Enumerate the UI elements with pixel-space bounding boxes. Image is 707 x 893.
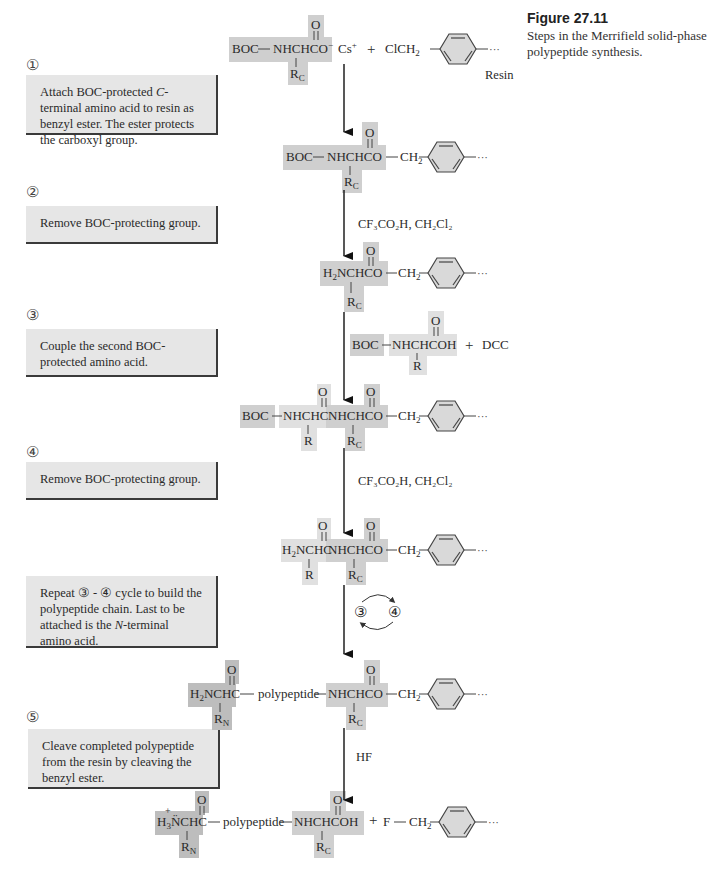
- svg-text:···: ···: [489, 43, 500, 55]
- svg-text:···: ···: [477, 544, 488, 556]
- svg-text:···: ···: [477, 267, 488, 279]
- svg-text:···: ···: [488, 816, 499, 828]
- svg-text:···: ···: [477, 410, 488, 422]
- benzene-ring-icon: [440, 34, 476, 64]
- svg-text:···: ···: [477, 688, 488, 700]
- svg-text:···: ···: [477, 151, 488, 163]
